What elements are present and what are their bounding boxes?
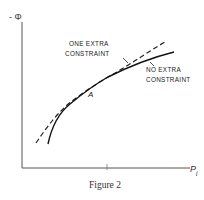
dashed-curve-one-extra-constraint xyxy=(36,42,165,143)
figure-2-chart: - Φ P i A ONE EXTRA CONSTRAINT NO EXTRA … xyxy=(0,0,204,200)
solid-curve-label-line2: CONSTRAINT xyxy=(146,76,191,83)
dashed-curve-label-line1: ONE EXTRA xyxy=(69,40,109,47)
dashed-curve-leader xyxy=(123,58,128,63)
solid-curve-label-line1: NO EXTRA xyxy=(146,66,182,73)
figure-caption: Figure 2 xyxy=(89,180,121,190)
y-axis-label: - Φ xyxy=(9,12,22,22)
dashed-curve-label-line2: CONSTRAINT xyxy=(65,50,110,57)
x-axis-subscript: i xyxy=(196,170,198,177)
point-a-label: A xyxy=(87,90,94,99)
